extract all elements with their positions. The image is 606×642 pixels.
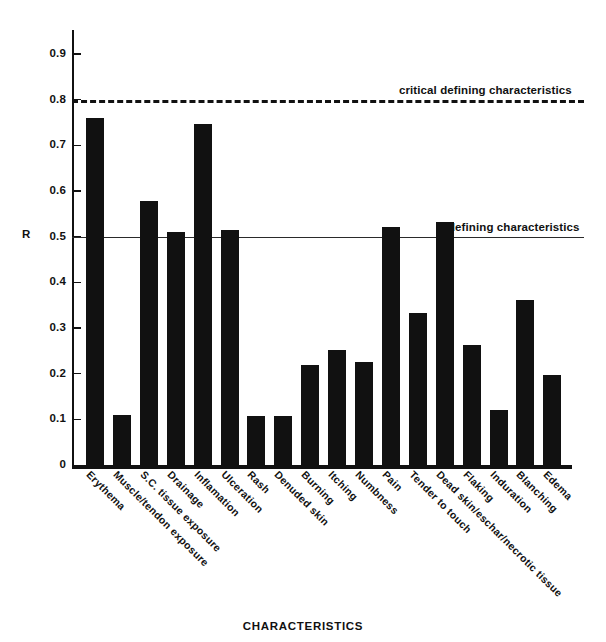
bar	[328, 350, 346, 466]
y-tick-label: 0.6	[32, 185, 66, 197]
y-tick-label: 0.4	[32, 276, 66, 288]
bar	[409, 313, 427, 466]
bar	[140, 201, 158, 466]
y-tick-label: 0.5	[32, 231, 66, 243]
bar	[194, 124, 212, 466]
bar	[490, 410, 508, 466]
bar	[543, 375, 561, 466]
x-tick-label-group: ErythemaMuscle/tendon exposureS.C. tissu…	[72, 469, 582, 609]
bar	[516, 300, 534, 466]
y-tick-label: 0.8	[32, 94, 66, 106]
bar-group	[72, 30, 572, 466]
bar	[355, 362, 373, 466]
bar	[247, 416, 265, 466]
bar	[86, 118, 104, 466]
y-tick-label: 0.2	[32, 368, 66, 380]
bar	[167, 232, 185, 466]
bar	[463, 345, 481, 466]
y-tick-label: 0.3	[32, 322, 66, 334]
bar	[221, 230, 239, 466]
bar-chart: R 00.10.20.30.40.50.60.70.80.9 critical …	[0, 0, 606, 642]
y-tick-label: 0.9	[32, 48, 66, 60]
bar	[382, 227, 400, 466]
y-tick-label: 0.1	[32, 413, 66, 425]
y-tick-label: 0.7	[32, 139, 66, 151]
bar	[301, 365, 319, 466]
y-tick-label: 0	[32, 459, 66, 471]
x-axis-title: CHARACTERISTICS	[0, 620, 606, 632]
bar	[113, 415, 131, 466]
bar	[436, 222, 454, 466]
y-tick-label-group: 00.10.20.30.40.50.60.70.80.9	[26, 0, 66, 642]
bar	[274, 416, 292, 466]
x-tick-label: Pain	[380, 469, 404, 493]
